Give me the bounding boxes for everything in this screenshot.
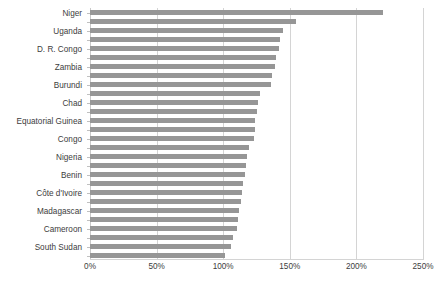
bar xyxy=(90,217,238,222)
bar-row xyxy=(90,53,276,62)
category-label: Burundi xyxy=(54,80,82,89)
bar xyxy=(90,100,258,105)
bar xyxy=(90,172,245,177)
category-label: Niger xyxy=(62,8,82,17)
x-tick-label: 0% xyxy=(84,262,96,271)
bar-row xyxy=(90,26,283,35)
bar-row xyxy=(90,71,272,80)
bar-row xyxy=(90,197,241,206)
gridline-250 xyxy=(423,8,424,260)
bar xyxy=(90,208,239,213)
category-label: Cameroon xyxy=(44,224,82,233)
plot-area xyxy=(90,8,423,260)
category-label: Benin xyxy=(61,170,82,179)
x-tick-label: 200% xyxy=(346,262,367,271)
bar xyxy=(90,154,247,159)
bar xyxy=(90,28,283,33)
bar xyxy=(90,64,275,69)
bar xyxy=(90,136,254,141)
bar xyxy=(90,163,246,168)
bar-row xyxy=(90,152,247,161)
bar-chart: NigerUgandaD. R. CongoZambiaBurundiChadE… xyxy=(0,0,441,285)
category-label: Uganda xyxy=(53,26,82,35)
bar-series xyxy=(90,8,423,260)
bar xyxy=(90,37,280,42)
bar-row xyxy=(90,62,275,71)
bar xyxy=(90,19,296,24)
bar-row xyxy=(90,179,243,188)
bar-row xyxy=(90,215,238,224)
category-label: Madagascar xyxy=(37,206,82,215)
category-label: Côte d'Ivoire xyxy=(36,188,82,197)
bar-row xyxy=(90,170,245,179)
bar xyxy=(90,10,383,15)
x-tick-label: 50% xyxy=(148,262,164,271)
bar xyxy=(90,199,241,204)
bar-row xyxy=(90,89,260,98)
category-label: Chad xyxy=(62,98,82,107)
bar xyxy=(90,235,233,240)
bar-row xyxy=(90,224,237,233)
category-label: Congo xyxy=(58,134,82,143)
category-label: Zambia xyxy=(55,62,82,71)
x-tick-label: 100% xyxy=(213,262,234,271)
category-label: South Sudan xyxy=(35,242,82,251)
x-axis-tick-labels: 0%50%100%150%200%250% xyxy=(0,262,441,280)
bar xyxy=(90,127,255,132)
bar-row xyxy=(90,251,225,260)
category-axis-labels: NigerUgandaD. R. CongoZambiaBurundiChadE… xyxy=(0,8,86,260)
bar-row xyxy=(90,188,242,197)
bar-row xyxy=(90,242,231,251)
bar xyxy=(90,91,260,96)
bar xyxy=(90,46,279,51)
bar xyxy=(90,109,257,114)
bar xyxy=(90,118,255,123)
bar-row xyxy=(90,161,246,170)
bar-row xyxy=(90,35,280,44)
bar xyxy=(90,226,237,231)
bar xyxy=(90,181,243,186)
category-label: Nigeria xyxy=(56,152,82,161)
bar-row xyxy=(90,80,271,89)
bar xyxy=(90,73,272,78)
bar xyxy=(90,253,225,258)
bar-row xyxy=(90,8,383,17)
bar-row xyxy=(90,134,254,143)
x-tick-label: 250% xyxy=(413,262,434,271)
x-tick-label: 150% xyxy=(279,262,300,271)
bar xyxy=(90,244,231,249)
bar xyxy=(90,145,249,150)
bar-row xyxy=(90,116,255,125)
bar xyxy=(90,55,276,60)
bar-row xyxy=(90,233,233,242)
category-label: D. R. Congo xyxy=(37,44,82,53)
bar-row xyxy=(90,44,279,53)
bar-row xyxy=(90,125,255,134)
bar xyxy=(90,190,242,195)
bar-row xyxy=(90,17,296,26)
category-label: Equatorial Guinea xyxy=(16,116,82,125)
bar-row xyxy=(90,206,239,215)
bar-row xyxy=(90,107,257,116)
bar xyxy=(90,82,271,87)
bar-row xyxy=(90,143,249,152)
bar-row xyxy=(90,98,258,107)
